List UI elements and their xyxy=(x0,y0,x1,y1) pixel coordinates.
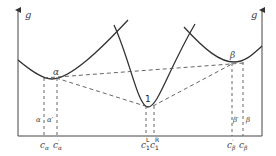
c-alpha-prime-label: cα ′ xyxy=(53,138,62,151)
tangent-alpha-1 xyxy=(56,78,145,106)
region-beta-prime-label: β′ xyxy=(232,116,239,124)
c-beta-prime-label: cβ ′ xyxy=(227,138,236,152)
region-beta-label: β xyxy=(245,116,250,124)
svg-text:cβ: cβ xyxy=(239,140,248,152)
c-beta-label: cβ xyxy=(239,140,248,152)
liquid-1-curve xyxy=(114,24,195,107)
free-energy-diagram: g g α 1 β α α′ β′ β cα cα ′ c1 L c1 R cβ… xyxy=(0,0,276,156)
region-alpha-prime-label: α′ xyxy=(47,116,54,124)
tangent-1-beta xyxy=(153,64,232,106)
beta-curve xyxy=(184,27,262,62)
alpha-phase-label: α xyxy=(53,67,59,77)
svg-text:R: R xyxy=(155,136,159,143)
c1-L-label: c1 L xyxy=(141,136,150,151)
liquid-1-phase-label: 1 xyxy=(145,94,151,104)
c-alpha-label: cα xyxy=(40,140,49,151)
region-alpha-label: α xyxy=(36,116,41,124)
svg-text:cα: cα xyxy=(40,140,49,151)
left-axis-label: g xyxy=(25,9,31,20)
right-axis-label: g xyxy=(251,9,257,20)
c1-R-label: c1 R xyxy=(150,136,159,151)
alpha-curve xyxy=(18,20,128,79)
beta-phase-label: β xyxy=(229,50,235,60)
